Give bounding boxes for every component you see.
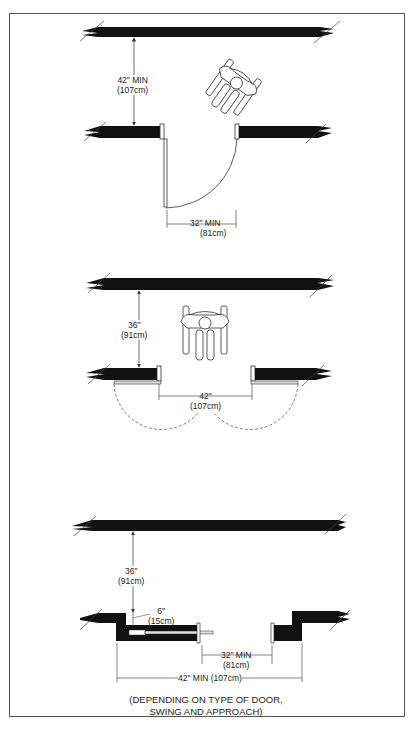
wall-right [274, 611, 350, 641]
wall-left [84, 126, 160, 138]
wall-left [86, 368, 157, 380]
door-swing-arc-left [114, 384, 199, 430]
wheelchair-user-diagonal-icon [200, 57, 264, 122]
dimension-label-door-width-3: 32" MIN (81cm) [221, 650, 251, 670]
door-leaf-left [114, 381, 161, 384]
door-jamb-right [271, 623, 274, 643]
door-swing-arc-right [213, 384, 298, 430]
dimension-label-corridor-depth-3: 36" (91cm) [118, 566, 144, 586]
sliding-door-pocket [129, 630, 145, 635]
door-leaf [164, 139, 167, 207]
door-jamb-left [157, 366, 161, 381]
dimension-label-door-width-1: 32" MIN (81cm) [184, 218, 226, 238]
dimension-label-wall-offset: 6" (15cm) [148, 606, 174, 626]
section-3-sliding-door [72, 514, 350, 682]
door-swing-arc [166, 139, 237, 208]
wall-left [80, 613, 197, 641]
diagram-note: (DEPENDING ON TYPE OF DOOR, SWING AND AP… [106, 694, 306, 718]
dimension-label-door-width-2: 42" (107cm) [190, 391, 221, 411]
door-jamb-left [160, 124, 164, 139]
wall-top [82, 27, 334, 37]
door-jamb-left [197, 623, 200, 643]
doorway-diagram [0, 0, 412, 736]
wall-right [255, 368, 332, 380]
dimension-label-corridor-depth-1: 42" MIN (107cm) [117, 75, 148, 95]
wall-top [72, 520, 346, 531]
sliding-door-leaf [145, 631, 213, 634]
door-jamb-right [251, 366, 255, 381]
wall-top [86, 278, 334, 290]
dimension-label-overall-width: 42" MIN (107cm) [178, 673, 242, 683]
wheelchair-user-front-icon [181, 306, 229, 360]
section-1-single-door [80, 21, 340, 228]
door-jamb-right [235, 124, 239, 139]
dimension-label-corridor-depth-2: 36" (91cm) [121, 320, 147, 340]
door-leaf-right [251, 381, 298, 384]
